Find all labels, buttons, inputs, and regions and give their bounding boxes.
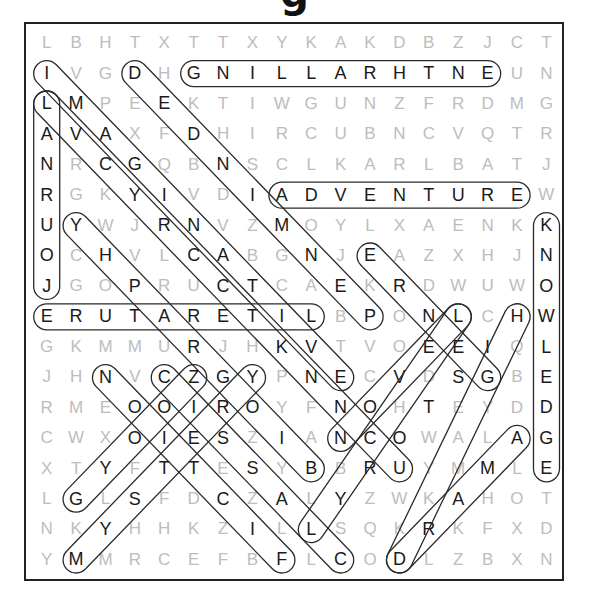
grid-cell[interactable]: N: [208, 150, 237, 180]
grid-cell[interactable]: P: [120, 271, 149, 301]
grid-cell[interactable]: Q: [150, 150, 179, 180]
grid-cell[interactable]: R: [120, 545, 149, 575]
grid-cell[interactable]: H: [120, 514, 149, 544]
grid-cell[interactable]: F: [414, 89, 443, 119]
grid-cell[interactable]: L: [91, 484, 120, 514]
grid-cell[interactable]: E: [355, 180, 384, 210]
grid-cell[interactable]: Z: [385, 89, 414, 119]
grid-cell[interactable]: L: [32, 484, 61, 514]
grid-cell[interactable]: D: [532, 393, 561, 423]
grid-cell[interactable]: R: [267, 119, 296, 149]
grid-cell[interactable]: T: [179, 28, 208, 58]
grid-cell[interactable]: I: [179, 393, 208, 423]
grid-cell[interactable]: A: [297, 271, 326, 301]
grid-cell[interactable]: I: [267, 423, 296, 453]
grid-cell[interactable]: B: [326, 302, 355, 332]
grid-cell[interactable]: T: [502, 150, 531, 180]
grid-cell[interactable]: R: [150, 271, 179, 301]
grid-cell[interactable]: O: [238, 393, 267, 423]
grid-cell[interactable]: I: [150, 180, 179, 210]
grid-cell[interactable]: A: [473, 150, 502, 180]
grid-cell[interactable]: M: [120, 332, 149, 362]
grid-cell[interactable]: G: [267, 241, 296, 271]
grid-cell[interactable]: C: [32, 423, 61, 453]
grid-cell[interactable]: X: [150, 28, 179, 58]
grid-cell[interactable]: T: [502, 119, 531, 149]
grid-cell[interactable]: L: [502, 453, 531, 483]
grid-cell[interactable]: L: [473, 423, 502, 453]
grid-cell[interactable]: C: [473, 302, 502, 332]
grid-cell[interactable]: B: [297, 453, 326, 483]
grid-cell[interactable]: N: [532, 545, 561, 575]
grid-cell[interactable]: O: [385, 423, 414, 453]
grid-cell[interactable]: Y: [414, 453, 443, 483]
grid-cell[interactable]: D: [473, 89, 502, 119]
grid-cell[interactable]: N: [385, 180, 414, 210]
grid-cell[interactable]: Z: [355, 484, 384, 514]
grid-cell[interactable]: M: [61, 545, 90, 575]
grid-cell[interactable]: O: [297, 210, 326, 240]
grid-cell[interactable]: A: [326, 58, 355, 88]
grid-cell[interactable]: Z: [238, 210, 267, 240]
grid-cell[interactable]: C: [267, 150, 296, 180]
grid-cell[interactable]: V: [61, 58, 90, 88]
grid-cell[interactable]: M: [502, 89, 531, 119]
grid-cell[interactable]: D: [414, 362, 443, 392]
grid-cell[interactable]: K: [179, 514, 208, 544]
grid-cell[interactable]: A: [414, 210, 443, 240]
grid-cell[interactable]: W: [91, 210, 120, 240]
grid-cell[interactable]: A: [326, 28, 355, 58]
grid-cell[interactable]: A: [150, 302, 179, 332]
grid-cell[interactable]: Y: [120, 180, 149, 210]
grid-cell[interactable]: S: [443, 362, 472, 392]
grid-cell[interactable]: A: [385, 241, 414, 271]
grid-cell[interactable]: O: [120, 393, 149, 423]
grid-cell[interactable]: V: [120, 241, 149, 271]
grid-cell[interactable]: D: [385, 28, 414, 58]
grid-cell[interactable]: R: [473, 180, 502, 210]
grid-cell[interactable]: U: [32, 210, 61, 240]
grid-cell[interactable]: E: [532, 362, 561, 392]
grid-cell[interactable]: A: [297, 423, 326, 453]
grid-cell[interactable]: K: [414, 484, 443, 514]
grid-cell[interactable]: U: [326, 119, 355, 149]
grid-cell[interactable]: S: [120, 484, 149, 514]
grid-cell[interactable]: G: [473, 362, 502, 392]
grid-cell[interactable]: R: [443, 89, 472, 119]
grid-cell[interactable]: C: [61, 241, 90, 271]
grid-cell[interactable]: E: [326, 271, 355, 301]
grid-cell[interactable]: T: [120, 302, 149, 332]
grid-cell[interactable]: N: [414, 302, 443, 332]
grid-cell[interactable]: R: [179, 302, 208, 332]
grid-cell[interactable]: N: [532, 58, 561, 88]
grid-cell[interactable]: P: [91, 89, 120, 119]
grid-cell[interactable]: L: [297, 484, 326, 514]
grid-cell[interactable]: Z: [238, 484, 267, 514]
grid-cell[interactable]: M: [473, 453, 502, 483]
grid-cell[interactable]: H: [91, 28, 120, 58]
grid-cell[interactable]: D: [120, 58, 149, 88]
grid-cell[interactable]: V: [208, 210, 237, 240]
grid-cell[interactable]: K: [61, 514, 90, 544]
grid-cell[interactable]: A: [443, 423, 472, 453]
grid-cell[interactable]: G: [61, 180, 90, 210]
grid-cell[interactable]: L: [297, 545, 326, 575]
grid-cell[interactable]: Y: [91, 514, 120, 544]
grid-cell[interactable]: R: [179, 332, 208, 362]
grid-cell[interactable]: L: [297, 302, 326, 332]
grid-cell[interactable]: H: [385, 58, 414, 88]
grid-cell[interactable]: Z: [443, 28, 472, 58]
grid-cell[interactable]: K: [91, 180, 120, 210]
grid-cell[interactable]: Y: [473, 393, 502, 423]
grid-cell[interactable]: D: [385, 545, 414, 575]
grid-cell[interactable]: Z: [179, 362, 208, 392]
grid-cell[interactable]: F: [120, 453, 149, 483]
grid-cell[interactable]: R: [355, 58, 384, 88]
grid-cell[interactable]: L: [532, 332, 561, 362]
grid-cell[interactable]: W: [443, 271, 472, 301]
grid-cell[interactable]: E: [326, 362, 355, 392]
grid-cell[interactable]: E: [532, 453, 561, 483]
grid-cell[interactable]: E: [208, 302, 237, 332]
grid-cell[interactable]: Y: [326, 210, 355, 240]
grid-cell[interactable]: W: [61, 423, 90, 453]
